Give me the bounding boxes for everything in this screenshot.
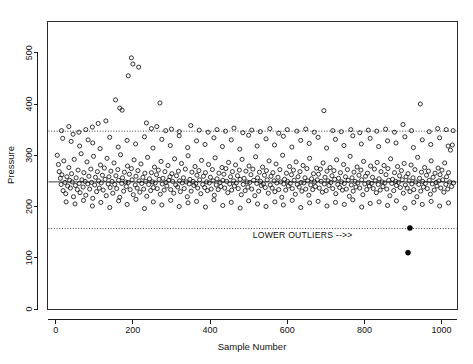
y-axis-tick-label: 300 — [24, 148, 34, 163]
y-axis-title: Pressure — [5, 146, 16, 184]
chart-canvas: LOWER OUTLIERS -->> 02004006008001000 01… — [0, 0, 473, 364]
x-axis-tick-label: 800 — [357, 325, 372, 335]
x-axis-tick-label: 600 — [280, 325, 295, 335]
lower-outliers-annotation: LOWER OUTLIERS -->> — [253, 230, 353, 240]
x-axis-title: Sample Number — [218, 341, 287, 352]
y-axis-tick-label: 500 — [24, 45, 34, 60]
x-axis-tick-label: 200 — [125, 325, 140, 335]
y-axis-tick-label: 100 — [24, 250, 34, 265]
pressure-control-chart: LOWER OUTLIERS -->> 02004006008001000 01… — [0, 0, 473, 364]
x-axis-tick-label: 0 — [53, 325, 58, 335]
annotations-group: LOWER OUTLIERS -->> — [253, 230, 353, 240]
x-axis-tick-label: 1000 — [432, 325, 452, 335]
y-axis-tick-label: 200 — [24, 199, 34, 214]
outlier-point — [406, 250, 411, 255]
y-axis-tick-label: 400 — [24, 96, 34, 111]
y-axis-tick-label: 0 — [24, 306, 34, 311]
outlier-point — [407, 226, 412, 231]
x-axis-tick-label: 400 — [203, 325, 218, 335]
